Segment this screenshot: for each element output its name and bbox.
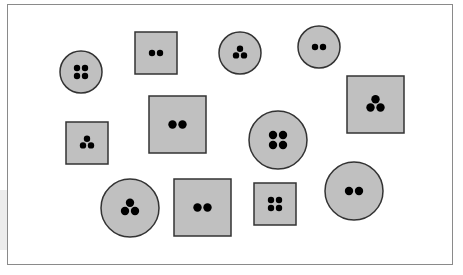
dot	[276, 197, 282, 203]
square-shape-3-dots	[347, 76, 404, 133]
dot	[233, 52, 239, 58]
dot	[355, 187, 363, 195]
dot	[203, 203, 211, 211]
dot	[74, 65, 80, 71]
dot	[376, 103, 384, 111]
dot	[131, 207, 139, 215]
dot	[366, 103, 374, 111]
dot	[269, 131, 277, 139]
dot	[168, 120, 176, 128]
circle-shape-3-dots	[101, 179, 159, 237]
circle-shape-2-dots	[325, 162, 383, 220]
dot	[237, 46, 243, 52]
dot	[80, 142, 86, 148]
dot	[279, 141, 287, 149]
dot	[157, 50, 163, 56]
square-shape-3-dots	[66, 122, 108, 164]
square-shape-2-dots	[135, 32, 177, 74]
dot	[82, 73, 88, 79]
circle-shape-2-dots	[298, 26, 340, 68]
dot	[371, 95, 379, 103]
dot	[149, 50, 155, 56]
dot	[241, 52, 247, 58]
dot	[178, 120, 186, 128]
dot	[345, 187, 353, 195]
dot	[279, 131, 287, 139]
dot	[268, 197, 274, 203]
dot	[74, 73, 80, 79]
dot	[312, 44, 318, 50]
dot	[268, 205, 274, 211]
diagram-canvas	[0, 0, 463, 275]
square-shape-4-dots	[254, 183, 296, 225]
circle-shape-3-dots	[219, 32, 261, 74]
dot	[82, 65, 88, 71]
shapes-layer	[0, 0, 463, 275]
dot	[193, 203, 201, 211]
square-shape-2-dots	[149, 96, 206, 153]
dot	[88, 142, 94, 148]
dot	[84, 136, 90, 142]
dot	[320, 44, 326, 50]
dot	[126, 199, 134, 207]
circle-shape-4-dots	[249, 111, 307, 169]
circle-shape-4-dots	[60, 51, 102, 93]
square-shape-2-dots	[174, 179, 231, 236]
dot	[276, 205, 282, 211]
dot	[121, 207, 129, 215]
dot	[269, 141, 277, 149]
